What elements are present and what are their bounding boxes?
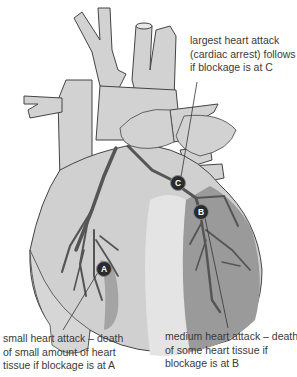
annotation-a-line-3: tissue if blockage is at A xyxy=(3,359,123,373)
svg-text:A: A xyxy=(101,264,107,274)
marker-b: B xyxy=(194,205,209,220)
annotation-blockage-b: medium heart attack – death of some hear… xyxy=(165,330,297,371)
marker-a: A xyxy=(97,262,112,277)
annotation-a-line-2: of small amount of heart xyxy=(3,346,123,360)
annotation-b-line-3: blockage is at B xyxy=(165,357,297,371)
annotation-c-line-1: largest heart attack xyxy=(190,34,296,48)
annotation-blockage-c: largest heart attack (cardiac arrest) fo… xyxy=(190,34,296,75)
marker-c: C xyxy=(171,176,186,191)
svg-text:C: C xyxy=(175,178,181,188)
annotation-b-line-1: medium heart attack – death xyxy=(165,330,297,344)
annotation-a-line-1: small heart attack – death xyxy=(3,332,123,346)
svg-text:B: B xyxy=(198,207,204,217)
annotation-c-line-2: (cardiac arrest) follows xyxy=(190,48,296,62)
annotation-c-line-3: if blockage is at C xyxy=(190,61,296,75)
annotation-blockage-a: small heart attack – death of small amou… xyxy=(3,332,123,373)
annotation-b-line-2: of some heart tissue if xyxy=(165,344,297,358)
